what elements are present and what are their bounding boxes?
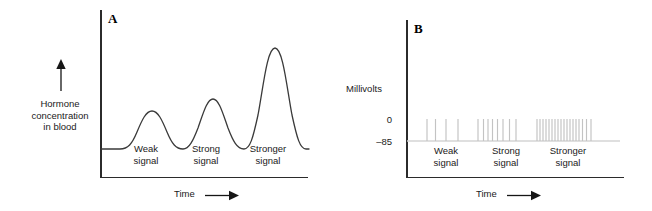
spike-train-weak bbox=[427, 119, 458, 141]
panel-b-y-tick-minus85: –85 bbox=[358, 136, 392, 147]
signal-label-line-2: signal bbox=[422, 157, 470, 169]
signal-label-line-1: Weak bbox=[422, 145, 470, 157]
panel-a-x-axis-label: Time bbox=[174, 188, 195, 199]
y-axis-label-line-3: in blood bbox=[8, 121, 112, 133]
panel-b: B Millivolts 0 –85 bbox=[330, 0, 652, 211]
signal-label-line-2: signal bbox=[240, 155, 296, 167]
panel-a-signal-label-weak: Weak signal bbox=[122, 143, 170, 166]
spike-train-stronger bbox=[537, 119, 591, 141]
figure-container: A Hormone concentration in blood Weak si… bbox=[0, 0, 652, 211]
panel-b-signal-label-weak: Weak signal bbox=[422, 145, 470, 168]
panel-b-signal-label-stronger: Stronger signal bbox=[540, 145, 596, 168]
panel-b-time-arrow-icon bbox=[507, 190, 543, 201]
panel-a-signal-label-strong: Strong signal bbox=[182, 143, 230, 166]
panel-b-y-axis-label: Millivolts bbox=[346, 83, 382, 95]
signal-label-line-1: Weak bbox=[122, 143, 170, 155]
panel-a-y-axis-label: Hormone concentration in blood bbox=[8, 98, 112, 133]
signal-label-line-1: Strong bbox=[482, 145, 530, 157]
panel-a-signal-label-stronger: Stronger signal bbox=[240, 143, 296, 166]
signal-label-line-1: Stronger bbox=[240, 143, 296, 155]
panel-b-signal-label-strong: Strong signal bbox=[482, 145, 530, 168]
spike-train-strong bbox=[478, 119, 516, 141]
y-axis-label-line-1: Hormone bbox=[8, 98, 112, 110]
signal-label-line-2: signal bbox=[122, 155, 170, 167]
signal-label-line-1: Stronger bbox=[540, 145, 596, 157]
signal-label-line-1: Strong bbox=[182, 143, 230, 155]
panel-b-x-axis-label: Time bbox=[476, 188, 497, 199]
panel-a: A Hormone concentration in blood Weak si… bbox=[0, 0, 330, 211]
signal-label-line-2: signal bbox=[540, 157, 596, 169]
signal-label-line-2: signal bbox=[182, 155, 230, 167]
y-axis-up-arrow-icon bbox=[52, 58, 70, 92]
panel-b-y-tick-0: 0 bbox=[360, 114, 392, 125]
y-axis-label-line-2: concentration bbox=[8, 110, 112, 122]
panel-a-time-arrow-icon bbox=[205, 190, 241, 201]
signal-label-line-2: signal bbox=[482, 157, 530, 169]
